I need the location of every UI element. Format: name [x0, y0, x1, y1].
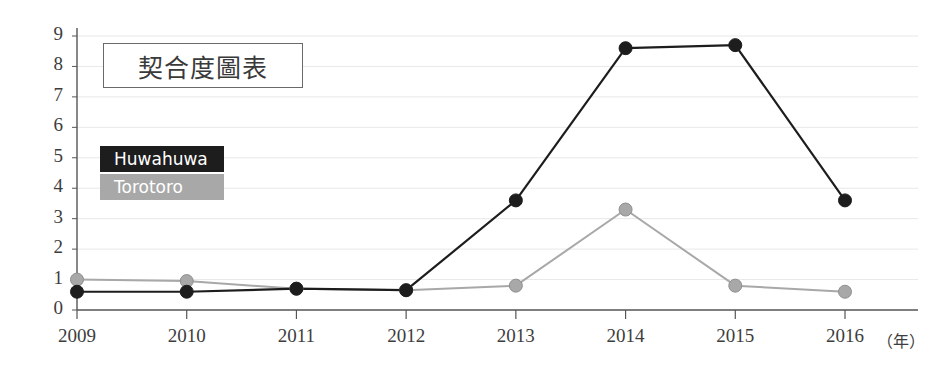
- y-axis-label-6: 6: [41, 114, 63, 136]
- legend-item-huwahuwa: Huwahuwa: [100, 146, 224, 172]
- chart-figure: 契合度圖表 Huwahuwa Torotoro 0123456789200920…: [0, 0, 925, 377]
- y-axis-label-0: 0: [41, 297, 63, 319]
- y-axis-label-2: 2: [41, 236, 63, 258]
- data-point-huwahuwa-2013: [509, 194, 522, 207]
- data-point-torotoro-2014: [619, 203, 632, 216]
- data-point-torotoro-2013: [509, 279, 522, 292]
- data-point-huwahuwa-2015: [729, 39, 742, 52]
- chart-title-box: 契合度圖表: [103, 43, 303, 88]
- page-title: 契合度圖表: [138, 48, 268, 84]
- y-axis-label-5: 5: [41, 145, 63, 167]
- data-point-torotoro-2016: [839, 285, 852, 298]
- x-axis-label-2013: 2013: [481, 325, 551, 347]
- data-point-huwahuwa-2009: [71, 285, 84, 298]
- x-axis-label-2009: 2009: [42, 325, 112, 347]
- data-point-huwahuwa-2016: [839, 194, 852, 207]
- y-axis-label-7: 7: [41, 84, 63, 106]
- x-axis-unit-label: （年）: [877, 328, 925, 352]
- chart-legend: Huwahuwa Torotoro: [100, 146, 224, 202]
- x-axis-label-2014: 2014: [591, 325, 661, 347]
- x-axis-label-2015: 2015: [700, 325, 770, 347]
- data-point-huwahuwa-2011: [290, 282, 303, 295]
- x-axis-label-2011: 2011: [261, 325, 331, 347]
- y-axis-label-8: 8: [41, 53, 63, 75]
- data-point-torotoro-2009: [71, 273, 84, 286]
- y-axis-label-1: 1: [41, 267, 63, 289]
- x-axis-label-2012: 2012: [371, 325, 441, 347]
- legend-item-torotoro: Torotoro: [100, 174, 224, 200]
- legend-label-huwahuwa: Huwahuwa: [114, 151, 208, 168]
- x-axis-ticks: [77, 310, 845, 319]
- data-point-torotoro-2015: [729, 279, 742, 292]
- data-point-huwahuwa-2014: [619, 42, 632, 55]
- x-axis-label-2010: 2010: [152, 325, 222, 347]
- data-point-huwahuwa-2012: [400, 284, 413, 297]
- legend-label-torotoro: Torotoro: [114, 179, 183, 196]
- data-point-huwahuwa-2010: [180, 285, 193, 298]
- y-axis-label-4: 4: [41, 175, 63, 197]
- y-axis-label-3: 3: [41, 206, 63, 228]
- x-axis-label-2016: 2016: [810, 325, 880, 347]
- y-axis-label-9: 9: [41, 23, 63, 45]
- y-axis-ticks: [72, 36, 77, 310]
